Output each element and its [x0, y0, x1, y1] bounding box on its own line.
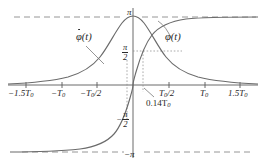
plot-canvas [0, 0, 266, 163]
y-tick-label-neg-pi: −π [124, 150, 135, 159]
x-tick-label-neg-t0: −T0 [51, 89, 65, 99]
y-tick-label-pi-half: π 2 [122, 43, 128, 61]
curve-label-phi: φ(t) [165, 32, 181, 43]
x-tick-label-1p5-t0: 1.5T0 [228, 89, 248, 99]
derivative-dot-icon [78, 29, 80, 31]
leader-crossing [144, 88, 154, 97]
x-tick-label-t0: T0 [200, 89, 208, 99]
annotation-crossing-0p14-t0: 0.14T0 [146, 99, 171, 109]
x-tick-label-neg-t0-half: −T0/2 [80, 89, 101, 99]
x-tick-label-neg-1p5-t0: −1.5T0 [8, 89, 34, 99]
phi-dot-accent-group: φ [76, 32, 82, 43]
minus-sign: − [117, 115, 122, 124]
curve-label-phi-dot: φ (t) [76, 32, 92, 43]
curve-phi [10, 17, 258, 152]
y-tick-label-pi: π [127, 8, 132, 17]
phase-function-figure: π π 2 − π 2 −π −1.5T0 −T0 −T0/2 T0/2 T0 … [0, 0, 266, 163]
y-tick-label-neg-pi-half: − π 2 [117, 110, 129, 128]
